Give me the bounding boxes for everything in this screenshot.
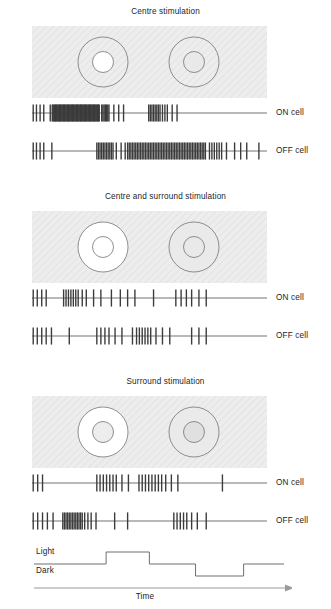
off-cell-label: OFF cell — [276, 331, 308, 340]
on-cell-spike-train — [32, 104, 267, 122]
receptive-field-figure: Centre stimulation — [0, 0, 331, 609]
off-centre-cell-field — [169, 407, 219, 457]
on-centre-cell-field — [78, 37, 128, 87]
on-cell-spike-train — [32, 474, 267, 492]
on-cell-label: ON cell — [276, 293, 304, 302]
on-centre-cell-field — [78, 407, 128, 457]
time-axis-label: Time — [0, 592, 290, 601]
light-dark-stimulus-trace — [26, 542, 292, 594]
time-axis-arrowhead — [285, 585, 292, 592]
off-cell-spike-train — [32, 142, 267, 160]
light-label: Light — [36, 547, 55, 556]
on-cell-label: ON cell — [276, 108, 304, 117]
visual-field-centre-and-surround-stimulation — [32, 211, 267, 283]
panel-centre-and-surround-stimulation: Centre and surround stimulation — [0, 185, 331, 370]
field-background — [32, 211, 267, 283]
off-cell-label: OFF cell — [276, 516, 308, 525]
field-background — [32, 26, 267, 98]
panel-title: Surround stimulation — [0, 377, 331, 386]
visual-field-centre-stimulation — [32, 26, 267, 98]
stimulus-step-line — [34, 552, 284, 576]
dark-label: Dark — [36, 566, 54, 575]
visual-field-surround-stimulation — [32, 396, 267, 468]
panel-title: Centre and surround stimulation — [0, 192, 331, 201]
off-cell-spike-train — [32, 512, 267, 530]
panel-title: Centre stimulation — [0, 7, 331, 16]
on-cell-spike-train — [32, 289, 267, 307]
off-centre-cell-field — [169, 222, 219, 272]
panel-surround-stimulation: Surround stimulation — [0, 370, 331, 609]
on-centre-cell-field — [78, 222, 128, 272]
off-cell-spike-train — [32, 327, 267, 345]
field-background — [32, 396, 267, 468]
off-centre-cell-field — [169, 37, 219, 87]
on-cell-label: ON cell — [276, 478, 304, 487]
off-cell-label: OFF cell — [276, 146, 308, 155]
panel-centre-stimulation: Centre stimulation — [0, 0, 331, 185]
